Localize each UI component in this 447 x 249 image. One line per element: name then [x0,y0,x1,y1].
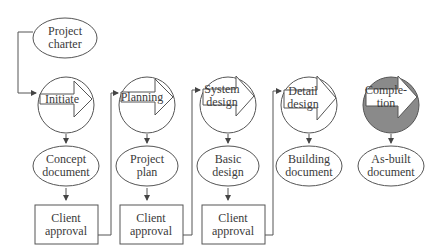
phase-label: Initiate [45,93,79,106]
phase-label: Planning [121,91,164,104]
phase-label: Systemdesign [204,83,239,109]
approval-label: Clientapproval [45,212,87,238]
deliverable-label: Projectplan [130,153,164,179]
phase-label: Detaildesign [287,85,318,111]
phase-label: Comple-tion [365,84,407,110]
approval-label: Clientapproval [212,212,254,238]
deliverable-label: Conceptdocument [42,153,89,179]
phase-planning-node [119,77,175,133]
approval-label: Clientapproval [130,212,172,238]
deliverable-label: Basicdesign [212,153,243,179]
deliverable-label: Buildingdocument [285,153,332,179]
deliverable-label: As-builtdocument [367,153,414,179]
project-charter-label: Projectcharter [48,25,82,51]
